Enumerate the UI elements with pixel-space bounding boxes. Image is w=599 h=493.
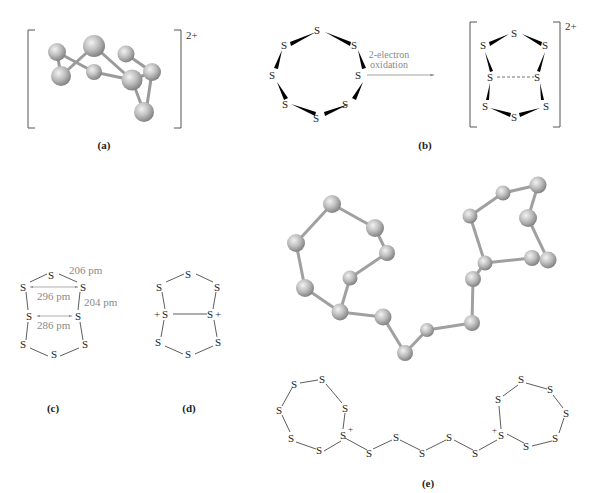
atom-s: S bbox=[552, 432, 558, 444]
atom-s: S bbox=[185, 348, 191, 360]
atom-s: S bbox=[291, 378, 297, 390]
atom-s: S bbox=[80, 281, 86, 293]
left-bracket bbox=[28, 30, 35, 128]
figure-canvas: 2+ (a) bbox=[0, 0, 599, 493]
distance-206: 206 pm bbox=[69, 264, 103, 276]
charge-label: 2+ bbox=[565, 20, 577, 32]
atom-s: S bbox=[269, 69, 275, 81]
atom-s: S bbox=[487, 71, 493, 83]
atom-s: S bbox=[48, 269, 54, 281]
plus-sign: + bbox=[492, 425, 497, 435]
atom-s: S bbox=[547, 383, 553, 395]
right-bracket bbox=[174, 30, 181, 128]
atom-s: S bbox=[75, 310, 81, 322]
panel-a: 2+ (a) bbox=[28, 29, 198, 152]
atom-s: S bbox=[340, 429, 346, 441]
atom-s: S bbox=[495, 393, 501, 405]
atom-s: S bbox=[542, 39, 548, 51]
atom-s: S bbox=[282, 98, 288, 110]
panel-d: S S S + S S + S S S (d) bbox=[154, 268, 221, 415]
panel-e-formula: S S S S S S S + S S S S S + S S S S S S … bbox=[276, 373, 569, 490]
atom-s: S bbox=[351, 39, 357, 51]
atom-s: S bbox=[214, 281, 220, 293]
charge-label: 2+ bbox=[186, 29, 198, 41]
atom-s: S bbox=[51, 348, 57, 360]
bonds-e-formula bbox=[282, 380, 564, 451]
atoms-e-3d bbox=[287, 177, 557, 362]
atom-s: S bbox=[276, 404, 282, 416]
right-bracket bbox=[553, 22, 560, 127]
caption-a: (a) bbox=[98, 139, 111, 152]
atom-s: S bbox=[316, 444, 322, 456]
atom-s: S bbox=[446, 431, 452, 443]
atom-s: S bbox=[342, 98, 348, 110]
atom-s: S bbox=[20, 281, 26, 293]
atoms-a bbox=[48, 35, 161, 122]
atom-s: S bbox=[482, 100, 488, 112]
atom-s: S bbox=[185, 268, 191, 280]
atom-s: S bbox=[534, 71, 540, 83]
caption-b: (b) bbox=[418, 139, 432, 152]
atom-s: S bbox=[314, 24, 320, 36]
atom-s: S bbox=[472, 447, 478, 459]
distance-286: 286 pm bbox=[37, 319, 71, 331]
atom-s: S bbox=[498, 429, 504, 441]
atom-s: S bbox=[215, 336, 221, 348]
distance-204: 204 pm bbox=[84, 296, 118, 308]
atom-s: S bbox=[543, 100, 549, 112]
atom-s: S bbox=[511, 111, 517, 123]
caption-e: (e) bbox=[422, 477, 435, 490]
plus-sign: + bbox=[154, 308, 160, 320]
left-bracket bbox=[470, 22, 477, 127]
atom-s: S bbox=[156, 281, 162, 293]
plus-sign: + bbox=[215, 308, 221, 320]
caption-c: (c) bbox=[47, 402, 60, 415]
atom-s: S bbox=[313, 112, 319, 124]
atom-s: S bbox=[281, 39, 287, 51]
plus-sign: + bbox=[348, 424, 353, 434]
panel-c: S S S S S S S S 206 pm 296 pm 204 pm 286… bbox=[20, 264, 118, 415]
caption-d: (d) bbox=[182, 402, 196, 415]
distance-296: 296 pm bbox=[37, 290, 71, 302]
atom-s: S bbox=[82, 338, 88, 350]
panel-e-model bbox=[287, 177, 557, 362]
atom-s: S bbox=[207, 308, 213, 320]
atom-s: S bbox=[511, 27, 517, 39]
panel-b: S S S S S S S S 2-electron oxidation 2+ bbox=[269, 20, 577, 152]
atom-s: S bbox=[419, 447, 425, 459]
atom-s: S bbox=[162, 308, 168, 320]
atom-s: S bbox=[26, 310, 32, 322]
atom-s: S bbox=[393, 431, 399, 443]
atom-s: S bbox=[563, 407, 569, 419]
atom-s: S bbox=[288, 432, 294, 444]
atom-s: S bbox=[155, 336, 161, 348]
atom-s: S bbox=[342, 402, 348, 414]
atom-s: S bbox=[480, 39, 486, 51]
arrow-label-line2: oxidation bbox=[370, 59, 408, 70]
atom-s: S bbox=[518, 373, 524, 385]
atom-s: S bbox=[355, 69, 361, 81]
atom-s: S bbox=[523, 440, 529, 452]
atom-s: S bbox=[366, 447, 372, 459]
s8-ring: S S S S S S S S bbox=[269, 24, 366, 124]
atom-s: S bbox=[20, 338, 26, 350]
atom-s: S bbox=[319, 373, 325, 385]
